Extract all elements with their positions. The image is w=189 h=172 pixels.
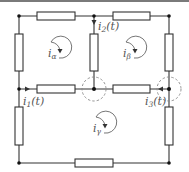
current-arrow-i1-icon <box>25 87 30 92</box>
loop-arrow-alpha-icon <box>58 49 63 54</box>
resistor-top-right <box>113 12 150 20</box>
node-top-right <box>167 14 171 18</box>
resistor-bottom <box>75 159 113 167</box>
svg-text:iβ: iβ <box>123 47 132 61</box>
mesh-loop-gamma: iγ <box>93 111 117 136</box>
node-middle-left <box>17 87 21 91</box>
node-top-left <box>17 14 21 18</box>
resistor-right-upper <box>165 34 173 71</box>
mesh-loop-beta: iβ <box>123 36 147 61</box>
label-i3: i3(t) <box>145 95 166 109</box>
node-top-center <box>92 14 96 18</box>
loop-arrow-beta-icon <box>133 49 138 54</box>
svg-text:iα: iα <box>48 47 57 61</box>
resistor-middle-right <box>113 85 150 93</box>
current-arrow-i3-icon <box>158 87 163 92</box>
loop-arrow-gamma-icon <box>103 124 108 129</box>
mesh-loop-alpha: iα <box>48 36 72 61</box>
label-i1: i1(t) <box>23 95 44 109</box>
label-i2: i2(t) <box>98 20 119 34</box>
current-arrow-i2-icon <box>92 20 97 25</box>
resistor-left-lower <box>15 107 23 145</box>
resistor-right-lower <box>165 107 173 145</box>
node-middle-center <box>92 87 96 91</box>
resistor-top-left <box>37 12 75 20</box>
node-bottom-right <box>167 161 171 165</box>
svg-text:iγ: iγ <box>93 122 102 136</box>
node-middle-right <box>167 87 171 91</box>
node-bottom-left <box>17 161 21 165</box>
circuit-diagram: i2(t) i1(t) i3(t) iα iβ iγ <box>0 0 189 172</box>
resistor-left-upper <box>15 34 23 71</box>
resistor-center-upper <box>90 34 98 71</box>
resistor-middle-left <box>37 85 75 93</box>
